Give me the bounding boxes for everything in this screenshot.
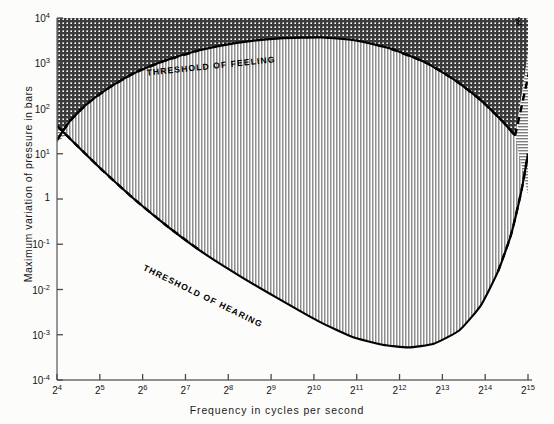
x-tick-label: 211 — [350, 384, 363, 396]
y-tick-label: 10-4 — [10, 374, 50, 386]
chart-figure: 104103102101110-110-210-310-4 2425262728… — [0, 0, 554, 424]
x-tick-label: 27 — [181, 384, 191, 396]
x-tick-label: 214 — [478, 384, 492, 396]
x-tick-label: 213 — [435, 384, 449, 396]
x-tick-label: 25 — [95, 384, 105, 396]
x-tick-label: 26 — [138, 384, 148, 396]
plot-regions — [57, 18, 534, 347]
x-tick-marks — [57, 374, 528, 380]
plot-canvas — [0, 0, 554, 424]
y-axis-title: Maximum variation of pressure in bars — [22, 34, 34, 334]
x-tick-label: 215 — [521, 384, 535, 396]
x-tick-label: 29 — [266, 384, 276, 396]
y-tick-label: 104 — [10, 12, 50, 24]
x-tick-label: 28 — [223, 384, 233, 396]
x-tick-label: 24 — [52, 384, 62, 396]
x-tick-label: 212 — [393, 384, 407, 396]
x-tick-label: 210 — [307, 384, 321, 396]
x-axis-title: Frequency in cycles per second — [0, 404, 554, 416]
